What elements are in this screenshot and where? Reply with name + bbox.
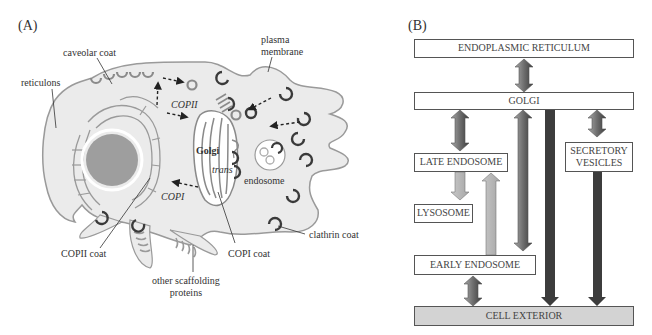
box-golgi: GOLGI bbox=[414, 92, 634, 110]
arrow-secretory-exterior bbox=[588, 172, 606, 306]
secretory-line2: VESICLES bbox=[576, 157, 623, 170]
box-secretory-vesicles: SECRETORY VESICLES bbox=[565, 142, 633, 172]
box-endoplasmic-reticulum: ENDOPLASMIC RETICULUM bbox=[414, 39, 634, 58]
arrow-golgi-secretory bbox=[588, 110, 606, 137]
arrow-er-golgi bbox=[515, 59, 533, 92]
box-late-endosome: LATE ENDOSOME bbox=[414, 153, 508, 172]
arrow-early-endosome-exterior bbox=[464, 276, 482, 306]
arrow-golgi-early-endosome bbox=[514, 110, 532, 251]
arrow-golgi-exterior bbox=[541, 110, 559, 306]
box-lysosome: LYSOSOME bbox=[414, 204, 473, 223]
arrow-late-endosome-lysosome bbox=[451, 172, 469, 200]
box-cell-exterior: CELL EXTERIOR bbox=[414, 306, 634, 326]
secretory-line1: SECRETORY bbox=[570, 145, 628, 158]
arrow-early-late-endosome bbox=[482, 173, 500, 255]
arrow-golgi-late-endosome bbox=[451, 110, 469, 151]
box-early-endosome: EARLY ENDOSOME bbox=[414, 255, 536, 275]
